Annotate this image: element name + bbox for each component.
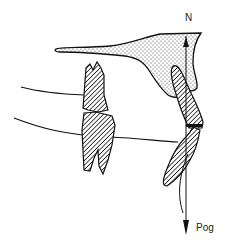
label-pog: Pog (196, 223, 214, 233)
lower-molar-hatched (82, 112, 115, 174)
upper-molar-hatched (83, 62, 108, 112)
dental-diagram (0, 0, 225, 241)
label-n: N (185, 13, 192, 23)
pog-arrow-down-icon (183, 220, 189, 235)
lower-incisor-hatched (163, 127, 200, 186)
upper-occlusal-curve (21, 87, 84, 95)
incisal-contact-bar (186, 124, 202, 127)
